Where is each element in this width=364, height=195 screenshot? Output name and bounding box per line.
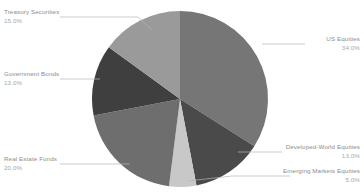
pie-slice-group <box>92 11 268 187</box>
callout-value-real-estate-funds: 20.0% <box>4 165 57 171</box>
callout-real-estate-funds: Real Estate Funds 20.0% <box>4 156 57 171</box>
callout-value-treasury-securities: 15.0% <box>4 18 59 24</box>
pie-chart-container: Treasury Securities 15.0% Government Bon… <box>0 0 364 195</box>
callout-label-government-bonds: Government Bonds <box>4 71 59 77</box>
callout-developed-world-equities: Developed-World Equities 13.0% <box>286 144 360 159</box>
callout-value-government-bonds: 13.0% <box>4 80 59 86</box>
callout-label-us-equities: US Equities <box>326 36 360 42</box>
callout-label-treasury-securities: Treasury Securities <box>4 9 59 15</box>
callout-value-emerging-markets-equities: 5.0% <box>283 177 360 183</box>
callout-treasury-securities: Treasury Securities 15.0% <box>4 9 59 24</box>
callout-label-developed-world-equities: Developed-World Equities <box>286 144 360 150</box>
callout-label-emerging-markets-equities: Emerging Markets Equities <box>283 168 360 174</box>
callout-label-real-estate-funds: Real Estate Funds <box>4 156 57 162</box>
callout-us-equities: US Equities 34.0% <box>326 36 360 51</box>
callout-value-developed-world-equities: 13.0% <box>286 153 360 159</box>
callout-emerging-markets-equities: Emerging Markets Equities 5.0% <box>283 168 360 183</box>
callout-value-us-equities: 34.0% <box>326 45 360 51</box>
callout-government-bonds: Government Bonds 13.0% <box>4 71 59 86</box>
